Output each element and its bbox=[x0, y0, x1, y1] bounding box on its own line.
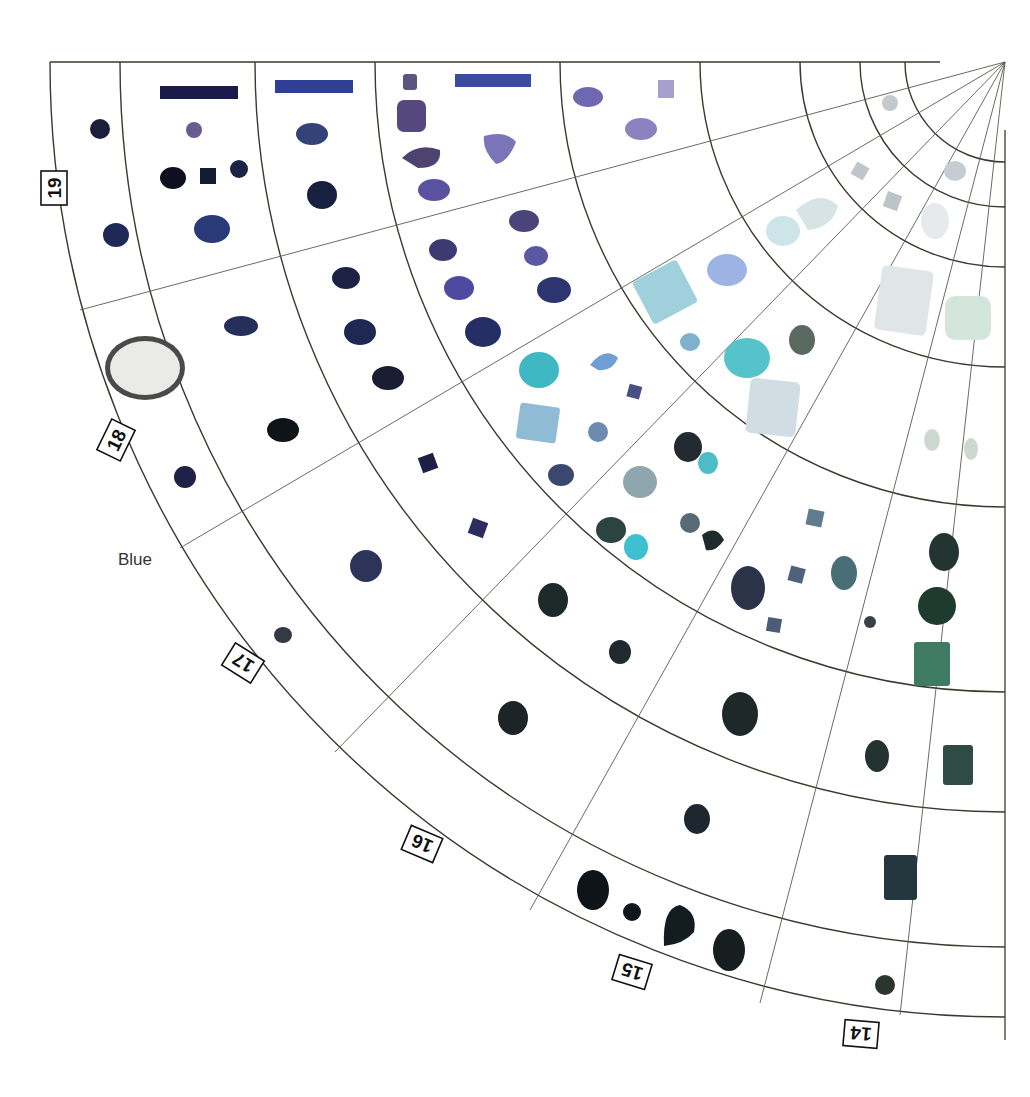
gem-dark-round bbox=[875, 975, 895, 995]
gem-moonstone bbox=[921, 203, 949, 239]
gem-dark-pear bbox=[702, 531, 724, 551]
gem-dark-blue bbox=[103, 223, 129, 247]
gem-dark-teal bbox=[674, 432, 702, 462]
ring-label-16: 16 bbox=[401, 825, 442, 862]
gem-round-grey bbox=[623, 466, 657, 498]
gem-dark-green bbox=[865, 740, 889, 772]
gem-aquamarine-emerald bbox=[632, 259, 699, 325]
gem-green-emerald bbox=[914, 642, 950, 686]
gem-white-emerald bbox=[874, 265, 935, 337]
gem-pale-oval bbox=[964, 438, 978, 460]
gem-blue bbox=[465, 317, 501, 347]
gem-violet bbox=[418, 179, 450, 201]
gem-light-violet-square bbox=[658, 80, 674, 98]
gem-turquoise-pear bbox=[698, 452, 718, 474]
gem-square-dark bbox=[200, 168, 216, 184]
gem-dark-blue bbox=[684, 804, 710, 834]
ring-b bbox=[255, 62, 1005, 812]
gem-grey-blue bbox=[680, 513, 700, 533]
gem-violet-pear bbox=[402, 147, 440, 168]
gem-light-blue bbox=[707, 254, 747, 286]
gem-grey-square bbox=[766, 617, 782, 633]
gem-green-cabochon bbox=[918, 587, 956, 625]
gem-dark-green bbox=[929, 533, 959, 571]
gem-dark bbox=[609, 640, 631, 664]
gem-blue-round bbox=[588, 422, 608, 442]
swatch-dark-navy bbox=[160, 86, 238, 99]
gem-violet-trillion bbox=[484, 134, 516, 164]
gem-dark-blue bbox=[90, 119, 110, 139]
ring-label-15: 15 bbox=[612, 955, 652, 990]
gem-round-blue bbox=[350, 550, 382, 582]
gem-blue bbox=[224, 316, 258, 336]
gemstone-color-wheel: 19 18 17 16 15 14 bbox=[0, 0, 1030, 1097]
sector-label-blue: Blue bbox=[118, 550, 152, 570]
gem-dark-blue bbox=[230, 160, 248, 178]
cameo-face bbox=[110, 341, 180, 395]
gem-light-violet bbox=[573, 87, 603, 107]
gem-pale-round bbox=[944, 161, 966, 181]
gem-dark-pear bbox=[664, 905, 695, 946]
gem-pale-square bbox=[850, 161, 869, 180]
ring-label-17: 17 bbox=[222, 643, 265, 683]
gem-dark bbox=[722, 692, 758, 736]
gem-dark bbox=[160, 167, 186, 189]
ring-19 bbox=[50, 62, 1005, 1017]
gem-pale-pear bbox=[796, 198, 838, 230]
swatch-bars bbox=[160, 74, 531, 99]
gem-grey-green bbox=[789, 325, 815, 355]
gem-pale-oval bbox=[924, 429, 940, 451]
spoke bbox=[760, 62, 1005, 1003]
spoke bbox=[530, 62, 1005, 910]
ring-label-19: 19 bbox=[41, 171, 67, 205]
gem-violet-cushion bbox=[397, 100, 426, 132]
gem-violet bbox=[403, 74, 417, 90]
gem-turquoise bbox=[724, 338, 770, 378]
gem-dark-blue bbox=[344, 319, 376, 345]
gem-dark bbox=[372, 366, 404, 390]
gem-violet bbox=[524, 246, 548, 266]
gem-blue bbox=[194, 215, 230, 243]
gem-dark-blue bbox=[174, 466, 196, 488]
gem-dark-teal bbox=[538, 583, 568, 617]
swatch-indigo bbox=[455, 74, 531, 87]
spoke bbox=[335, 62, 1005, 752]
gem-green-emerald bbox=[943, 745, 973, 785]
spoke bbox=[80, 62, 1005, 310]
gem-square-blue bbox=[468, 518, 489, 539]
swatch-blue bbox=[275, 80, 353, 93]
gem-dark bbox=[267, 418, 299, 442]
gem-opal bbox=[731, 566, 765, 610]
ring-label-14: 14 bbox=[843, 1020, 879, 1049]
gem-blue bbox=[537, 277, 571, 303]
gem-dark bbox=[577, 870, 609, 910]
gem-dark bbox=[498, 701, 528, 735]
gem-white-emerald bbox=[745, 378, 800, 438]
ring-a bbox=[120, 62, 1005, 947]
gem-square-dark-blue bbox=[418, 453, 439, 474]
gem-turquoise bbox=[519, 352, 559, 388]
gem-aquamarine bbox=[516, 402, 561, 443]
gem-dark-teal bbox=[596, 517, 626, 543]
gem-violet bbox=[186, 122, 202, 138]
gem-teal bbox=[831, 556, 857, 590]
ring-label-text: 19 bbox=[44, 177, 65, 198]
gem-dark-blue bbox=[332, 267, 360, 289]
gem-violet bbox=[444, 276, 474, 300]
gem-paraiba bbox=[624, 534, 648, 560]
gem-pale-round bbox=[882, 95, 898, 111]
grid bbox=[50, 62, 1005, 1040]
gem-blue bbox=[296, 123, 328, 145]
gem-blue bbox=[548, 464, 574, 486]
gem-dark-blue bbox=[307, 181, 337, 209]
gem-aqua-trillion bbox=[680, 333, 700, 351]
gem-dark bbox=[713, 929, 745, 971]
gem-dark bbox=[274, 627, 292, 643]
gem-blue-pear bbox=[590, 353, 618, 370]
gem-dark bbox=[623, 903, 641, 921]
gem-grey-square bbox=[787, 565, 805, 583]
gem-grey-square bbox=[806, 509, 825, 528]
gem-dark-round bbox=[864, 616, 876, 628]
gem-pale-green-cushion bbox=[945, 296, 991, 340]
ring-label-18: 18 bbox=[97, 419, 135, 461]
